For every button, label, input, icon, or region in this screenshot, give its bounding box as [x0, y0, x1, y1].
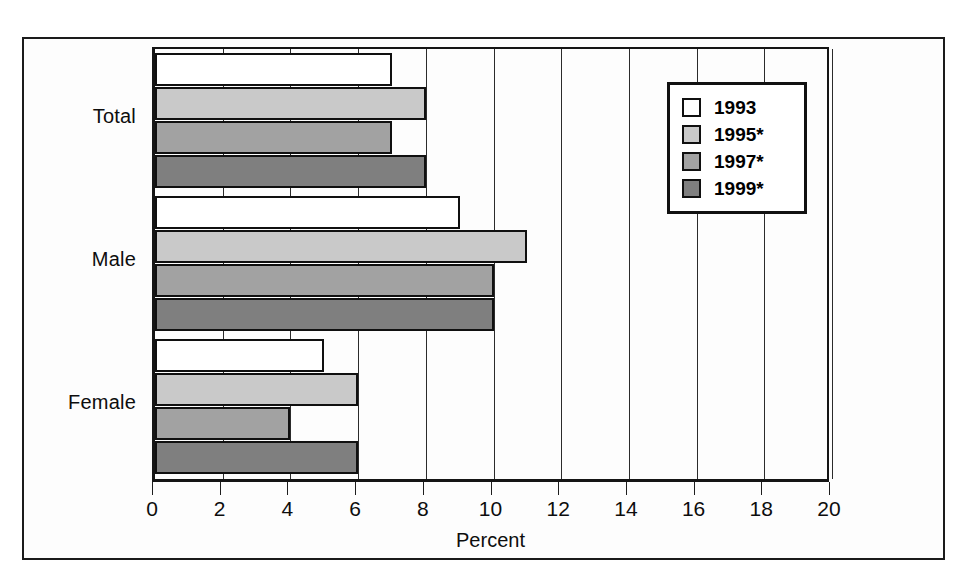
x-tick-20 — [829, 482, 830, 495]
x-tick-4 — [287, 482, 288, 495]
x-tick-label-16: 16 — [664, 497, 724, 521]
bar-total-1995 — [155, 87, 426, 120]
legend-label-1995: 1995* — [714, 125, 764, 144]
x-tick-label-20: 20 — [799, 497, 859, 521]
bar-female-1993 — [155, 339, 324, 372]
x-tick-2 — [220, 482, 221, 495]
x-tick-label-14: 14 — [596, 497, 656, 521]
bar-total-1999 — [155, 155, 426, 188]
x-axis-title: Percent — [152, 529, 829, 552]
x-tick-label-4: 4 — [257, 497, 317, 521]
legend-label-1997: 1997* — [714, 152, 764, 171]
figure-frame: TotalMaleFemale 02468101214161820 Percen… — [22, 37, 945, 560]
legend-item-1997[interactable]: 1997* — [682, 148, 794, 175]
category-label-male: Male — [24, 248, 136, 271]
x-tick-label-10: 10 — [461, 497, 521, 521]
gridline-14 — [629, 49, 630, 479]
gridline-12 — [561, 49, 562, 479]
x-tick-12 — [558, 482, 559, 495]
bar-female-1997 — [155, 407, 290, 440]
chart-legend: 19931995*1997*1999* — [667, 82, 807, 214]
x-tick-16 — [694, 482, 695, 495]
category-label-total: Total — [24, 105, 136, 128]
x-tick-label-2: 2 — [190, 497, 250, 521]
x-tick-label-18: 18 — [731, 497, 791, 521]
legend-item-1999[interactable]: 1999* — [682, 175, 794, 202]
bar-total-1997 — [155, 121, 392, 154]
x-tick-14 — [626, 482, 627, 495]
gridline-20 — [832, 49, 833, 479]
x-tick-label-12: 12 — [528, 497, 588, 521]
x-tick-18 — [761, 482, 762, 495]
x-tick-8 — [423, 482, 424, 495]
x-tick-label-8: 8 — [393, 497, 453, 521]
legend-item-1995[interactable]: 1995* — [682, 121, 794, 148]
bar-male-1993 — [155, 196, 460, 229]
bar-male-1995 — [155, 230, 527, 263]
bar-male-1999 — [155, 298, 494, 331]
legend-swatch-1993-icon — [682, 98, 701, 117]
bar-male-1997 — [155, 264, 494, 297]
bar-female-1999 — [155, 441, 358, 474]
legend-label-1999: 1999* — [714, 179, 764, 198]
legend-swatch-1999-icon — [682, 179, 701, 198]
bar-female-1995 — [155, 373, 358, 406]
x-tick-label-6: 6 — [325, 497, 385, 521]
legend-item-1993[interactable]: 1993 — [682, 94, 794, 121]
bar-total-1993 — [155, 53, 392, 86]
x-tick-0 — [152, 482, 153, 495]
x-tick-label-0: 0 — [122, 497, 182, 521]
gridline-10 — [494, 49, 495, 479]
legend-swatch-1995-icon — [682, 125, 701, 144]
x-tick-10 — [491, 482, 492, 495]
x-tick-6 — [355, 482, 356, 495]
legend-label-1993: 1993 — [714, 98, 756, 117]
category-label-female: Female — [24, 391, 136, 414]
legend-swatch-1997-icon — [682, 152, 701, 171]
